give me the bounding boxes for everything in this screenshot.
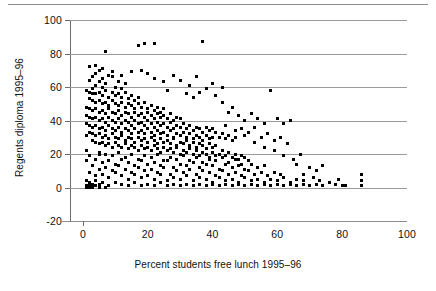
- x-tick-label: 80: [336, 228, 348, 240]
- x-tick-label: 40: [207, 228, 219, 240]
- y-axis-title: Regents diploma 1995–96: [14, 23, 25, 213]
- x-tick-label: 60: [271, 228, 283, 240]
- x-tick-label: 0: [80, 228, 86, 240]
- x-tick-label: 100: [398, 228, 416, 240]
- x-tick-labels: 020406080100: [0, 0, 436, 291]
- x-tick-label: 20: [142, 228, 154, 240]
- x-axis-title: Percent students free lunch 1995–96: [0, 259, 436, 270]
- x-tick-mark: [83, 221, 84, 226]
- scatter-chart-figure: 100806040200-20 020406080100 Percent stu…: [0, 0, 436, 291]
- x-axis-line: [62, 221, 407, 222]
